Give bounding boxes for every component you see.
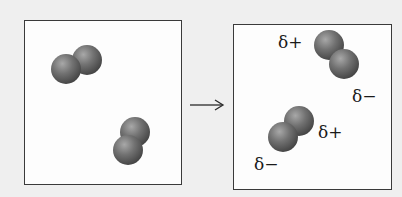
before-molecule-1 bbox=[51, 45, 102, 84]
atom-sphere bbox=[113, 135, 143, 165]
partial-positive-label: δ+ bbox=[278, 34, 302, 51]
molecules-layer bbox=[0, 0, 402, 197]
after-molecule-1 bbox=[314, 30, 359, 79]
reaction-arrow-icon bbox=[190, 100, 223, 110]
partial-positive-label: δ+ bbox=[318, 124, 342, 141]
before-molecule-2 bbox=[113, 117, 150, 165]
partial-negative-label: δ− bbox=[352, 88, 376, 105]
partial-negative-label: δ− bbox=[254, 156, 278, 173]
atom-sphere bbox=[51, 54, 81, 84]
atom-sphere-negative bbox=[329, 49, 359, 79]
atom-sphere-negative bbox=[268, 122, 298, 152]
after-molecule-2 bbox=[268, 106, 314, 152]
